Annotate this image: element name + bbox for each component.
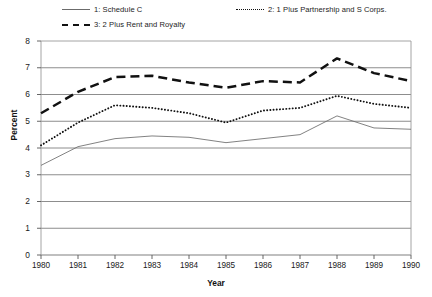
- x-tick-label: 1988: [317, 261, 357, 270]
- y-tick-label: 6: [8, 89, 30, 99]
- plot-canvas: [0, 0, 432, 297]
- x-tick-label: 1985: [206, 261, 246, 270]
- x-tick-label: 1981: [58, 261, 98, 270]
- x-tick-label: 1983: [132, 261, 172, 270]
- x-tick-label: 1990: [391, 261, 431, 270]
- y-tick-label: 1: [8, 223, 30, 233]
- y-tick-label: 3: [8, 169, 30, 179]
- x-axis-title: Year: [0, 278, 432, 288]
- x-tick-label: 1986: [243, 261, 283, 270]
- y-tick-label: 8: [8, 36, 30, 46]
- y-tick-label: 2: [8, 196, 30, 206]
- x-tick-label: 1987: [280, 261, 320, 270]
- plot-area-wrapper: Percent Year 012345678 19801981198219831…: [0, 0, 432, 297]
- x-tick-label: 1984: [169, 261, 209, 270]
- x-tick-label: 1980: [21, 261, 61, 270]
- y-tick-label: 5: [8, 116, 30, 126]
- series-line-1: [41, 116, 411, 165]
- y-tick-label: 4: [8, 143, 30, 153]
- x-tick-label: 1989: [354, 261, 394, 270]
- y-tick-label: 7: [8, 62, 30, 72]
- line-chart-figure: 1: Schedule C 2: 1 Plus Partnership and …: [0, 0, 432, 297]
- series-line-2: [41, 96, 411, 145]
- x-tick-label: 1982: [95, 261, 135, 270]
- series-line-3: [41, 58, 411, 113]
- y-tick-label: 0: [8, 250, 30, 260]
